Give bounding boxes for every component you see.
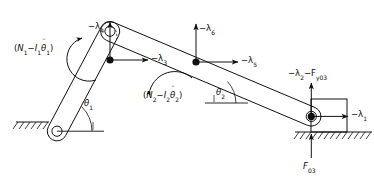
label-theta2: θ2 bbox=[216, 88, 225, 97]
label-lambda4: −λ4 bbox=[88, 22, 104, 31]
label-f03: F03 bbox=[303, 162, 316, 171]
label-moment1: (N1−I1¨θ1) bbox=[14, 44, 53, 53]
label-lambda6: −λ6 bbox=[199, 24, 215, 33]
force-application-points bbox=[106, 56, 315, 120]
angle-theta1 bbox=[57, 107, 104, 132]
label-moment2: (N2−I2¨θ2) bbox=[143, 91, 182, 100]
crank-link bbox=[47, 21, 119, 140]
label-lambda3: −λ3 bbox=[151, 54, 167, 63]
diagram-canvas: (N1−I1¨θ1) (N2−I2¨θ2) −λ4 −λ3 −λ6 −λ5 −λ… bbox=[0, 0, 374, 182]
diagram-vector-layer bbox=[0, 0, 374, 182]
label-lambda1: −λ1 bbox=[351, 110, 367, 119]
double-dot-accent: ¨ bbox=[171, 86, 174, 93]
slider-block bbox=[294, 99, 372, 139]
ground-support-left bbox=[13, 122, 49, 129]
double-dot-accent: ¨ bbox=[42, 39, 45, 46]
label-theta1: θ1 bbox=[84, 99, 93, 108]
label-lambda5: −λ5 bbox=[241, 56, 257, 65]
label-lambda2-fy03: −λ2−Fy03 bbox=[288, 69, 327, 78]
